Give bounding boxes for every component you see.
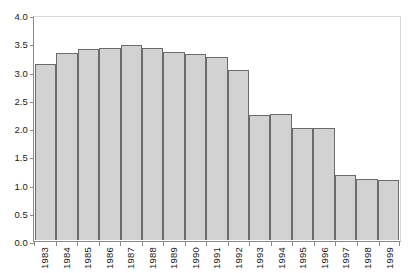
x-axis-tick-label-text: 1983	[40, 247, 50, 269]
y-axis-tick-mark	[30, 158, 34, 159]
x-axis-tick-label: 1986	[99, 247, 121, 273]
y-axis-tick-mark	[30, 215, 34, 216]
x-axis-tick-mark	[357, 242, 379, 246]
x-axis-tick-mark	[163, 242, 185, 246]
x-axis-tick-label-text: 1994	[277, 247, 287, 269]
x-axis-tick-mark	[335, 242, 357, 246]
y-axis-tick-label: 1.0	[14, 180, 28, 191]
x-axis-tick-label-text: 1984	[62, 247, 72, 269]
bars-layer	[35, 17, 399, 240]
x-axis-tick-label: 1995	[292, 247, 314, 273]
y-axis-tick-label: 2.0	[14, 124, 28, 135]
x-axis-tick-mark	[271, 242, 293, 246]
x-axis-tick-label-text: 1992	[234, 247, 244, 269]
y-axis-tick-mark	[30, 130, 34, 131]
x-axis-tick-label: 1985	[77, 247, 99, 273]
x-axis-labels: 1983198419851986198719881989199019911992…	[34, 247, 400, 273]
bar	[35, 64, 56, 240]
y-axis-tick-mark	[30, 45, 34, 46]
y-axis-tick-label: 3.0	[14, 67, 28, 78]
bar	[206, 57, 227, 240]
y-axis-tick-label: 4.0	[14, 11, 28, 22]
x-axis-tick-label-text: 1985	[83, 247, 93, 269]
x-axis-tick-label: 1990	[185, 247, 207, 273]
x-axis-tick-label-text: 1999	[385, 247, 395, 269]
y-axis-tick-label: 0.0	[14, 237, 28, 248]
x-axis-tick-label-text: 1995	[298, 247, 308, 269]
bar	[99, 48, 120, 240]
y-axis-tick-mark	[30, 102, 34, 103]
bar	[56, 53, 77, 240]
x-axis-tick-label: 1987	[120, 247, 142, 273]
x-axis-tick-label: 1997	[335, 247, 357, 273]
bar	[270, 114, 291, 240]
x-axis-tick-label: 1991	[206, 247, 228, 273]
x-axis-tick-mark	[185, 242, 207, 246]
y-axis-tick-mark	[30, 74, 34, 75]
bar	[378, 180, 399, 240]
x-axis-tick-label: 1993	[249, 247, 271, 273]
x-axis-tick-label-text: 1996	[320, 247, 330, 269]
x-axis-tick-label: 1984	[56, 247, 78, 273]
x-axis-tick-mark	[228, 242, 250, 246]
x-axis-tick-label: 1999	[379, 247, 401, 273]
bar	[163, 52, 184, 240]
x-axis-tick-mark	[77, 242, 99, 246]
bar	[185, 54, 206, 240]
x-axis-tick-label: 1994	[271, 247, 293, 273]
x-axis-ticks	[34, 242, 400, 246]
x-axis-tick-label-text: 1989	[169, 247, 179, 269]
x-axis-tick-mark	[34, 242, 56, 246]
x-axis: 1983198419851986198719881989199019911992…	[33, 242, 401, 273]
y-axis-tick-label: 0.5	[14, 208, 28, 219]
bar	[356, 179, 377, 240]
x-axis-tick-label: 1992	[228, 247, 250, 273]
y-axis-tick-mark	[30, 187, 34, 188]
y-axis: 4.03.53.02.52.01.51.00.50.0	[0, 0, 32, 273]
x-axis-tick-label: 1988	[142, 247, 164, 273]
bar	[78, 49, 99, 240]
y-axis-tick-label: 3.5	[14, 39, 28, 50]
bar	[313, 128, 334, 241]
x-axis-tick-label: 1989	[163, 247, 185, 273]
x-axis-tick-label-text: 1997	[341, 247, 351, 269]
x-axis-tick-mark	[56, 242, 78, 246]
x-axis-tick-mark	[249, 242, 271, 246]
x-axis-tick-label-text: 1998	[363, 247, 373, 269]
x-axis-tick-label-text: 1987	[126, 247, 136, 269]
x-axis-tick-label: 1983	[34, 247, 56, 273]
x-axis-tick-mark	[120, 242, 142, 246]
bar	[142, 48, 163, 240]
x-axis-tick-label: 1998	[357, 247, 379, 273]
bar	[228, 70, 249, 240]
x-axis-tick-label: 1996	[314, 247, 336, 273]
x-axis-tick-label-text: 1988	[148, 247, 158, 269]
x-axis-tick-mark	[99, 242, 121, 246]
bar-chart: 4.03.53.02.52.01.51.00.50.0 198319841985…	[0, 0, 410, 273]
bar	[121, 45, 142, 240]
x-axis-tick-label-text: 1993	[255, 247, 265, 269]
x-axis-tick-label-text: 1991	[212, 247, 222, 269]
x-axis-tick-mark	[292, 242, 314, 246]
x-axis-tick-mark	[379, 242, 401, 246]
bar	[249, 115, 270, 240]
x-axis-tick-mark	[142, 242, 164, 246]
y-axis-tick-mark	[30, 17, 34, 18]
y-axis-tick-label: 1.5	[14, 152, 28, 163]
x-axis-tick-label-text: 1986	[105, 247, 115, 269]
x-axis-tick-mark	[314, 242, 336, 246]
plot-area	[33, 16, 401, 242]
bar	[335, 175, 356, 240]
x-axis-tick-mark	[206, 242, 228, 246]
bar	[292, 128, 313, 241]
x-axis-tick-label-text: 1990	[191, 247, 201, 269]
y-axis-tick-label: 2.5	[14, 95, 28, 106]
